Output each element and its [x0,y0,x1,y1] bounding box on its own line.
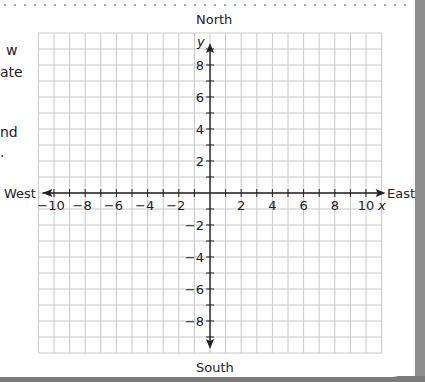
x-tick-label: 8 [331,198,339,213]
coordinate-grid: −10−8−6−4−22468108642−2−4−6−8xy [0,0,425,382]
x-tick-label: −4 [135,198,154,213]
y-tick-label: −4 [185,250,204,265]
x-tick-label: −2 [166,198,185,213]
y-tick-label: 2 [196,154,204,169]
x-tick-label: −8 [73,198,92,213]
y-tick-label: 6 [196,90,204,105]
x-tick-label: −10 [37,198,64,213]
y-axis-label: y [196,34,205,49]
y-tick-label: −2 [185,218,204,233]
x-tick-label: 4 [268,198,276,213]
x-tick-label: 6 [299,198,307,213]
y-tick-label: −8 [185,314,204,329]
y-tick-label: 4 [196,122,204,137]
x-tick-label: 10 [358,198,375,213]
y-tick-label: −6 [185,282,204,297]
x-tick-label: −6 [104,198,123,213]
y-tick-label: 8 [196,58,204,73]
x-axis-label: x [377,198,386,213]
x-tick-label: 2 [237,198,245,213]
